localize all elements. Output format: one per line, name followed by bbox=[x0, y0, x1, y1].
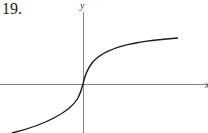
graph bbox=[0, 0, 208, 133]
function-curve bbox=[12, 38, 178, 133]
